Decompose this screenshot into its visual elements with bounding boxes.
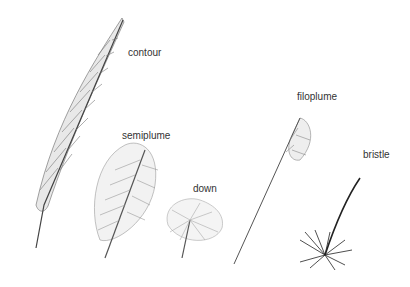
label-filoplume: filoplume: [297, 91, 337, 102]
feather-types-diagram: contour semiplume down filoplume bristle: [0, 0, 410, 287]
semiplume-illustration: [94, 143, 158, 258]
filoplume-illustration: [234, 118, 311, 264]
down-feather-illustration: [167, 199, 223, 258]
bristle-illustration: [300, 178, 360, 270]
label-bristle: bristle: [363, 149, 390, 160]
feather-illustrations: [0, 0, 410, 287]
label-contour: contour: [128, 47, 161, 58]
label-down: down: [193, 183, 217, 194]
label-semiplume: semiplume: [122, 130, 170, 141]
